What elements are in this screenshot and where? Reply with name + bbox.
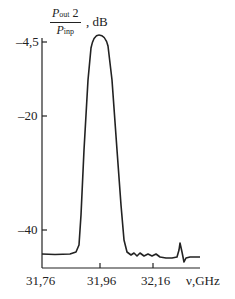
plot-area [0,0,235,299]
transmission-curve [42,35,200,262]
